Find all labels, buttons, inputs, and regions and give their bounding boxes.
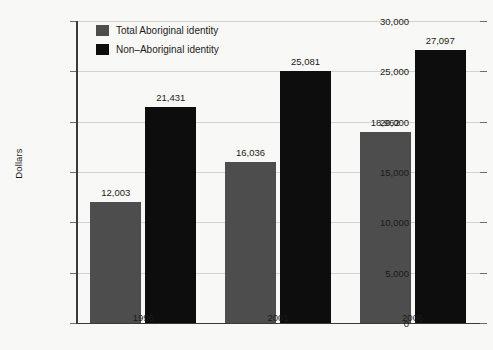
bar[interactable] xyxy=(225,162,276,323)
y-axis-tick-mark-right xyxy=(480,323,487,324)
y-axis-tick-mark-right xyxy=(480,71,487,72)
y-axis-tick-label: 15,000 xyxy=(380,167,409,178)
x-axis-category-label: 1996 xyxy=(133,312,154,323)
y-axis-tick-mark-right xyxy=(480,21,487,22)
y-axis-tick-label: 5,000 xyxy=(385,267,409,278)
y-axis-tick-label: 25,000 xyxy=(380,66,409,77)
x-axis-category-label: 2006 xyxy=(402,312,423,323)
y-axis-tick-label: 20,000 xyxy=(380,116,409,127)
y-axis-title: Dollars xyxy=(13,124,24,204)
bar[interactable] xyxy=(90,202,141,323)
bar-chart-figure: Dollars Total Aboriginal identity Non–Ab… xyxy=(0,0,493,350)
bar-value-label: 12,003 xyxy=(101,187,130,198)
bar[interactable] xyxy=(280,71,331,323)
bar-value-label: 16,036 xyxy=(236,147,265,158)
bar[interactable] xyxy=(415,50,466,323)
x-axis-category-label: 2001 xyxy=(267,312,288,323)
bar-value-label: 27,097 xyxy=(426,35,455,46)
y-axis-tick-mark-right xyxy=(480,273,487,274)
bar-value-label: 25,081 xyxy=(291,56,320,67)
plot-area: 12,00321,43116,03625,08118,96227,097 xyxy=(76,21,480,323)
y-axis-tick-label: 10,000 xyxy=(380,217,409,228)
y-axis-tick-mark-right xyxy=(480,222,487,223)
bar[interactable] xyxy=(145,107,196,323)
y-axis-tick-mark-right xyxy=(480,122,487,123)
y-axis-tick-label: 30,000 xyxy=(380,16,409,27)
gridline xyxy=(76,21,480,22)
y-axis-tick-mark-right xyxy=(480,172,487,173)
y-axis-line xyxy=(76,21,78,324)
bar-value-label: 21,431 xyxy=(156,92,185,103)
